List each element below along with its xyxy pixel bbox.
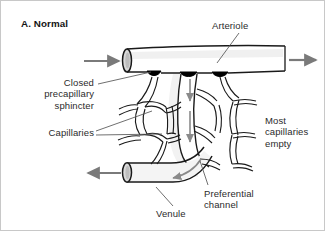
label-capillaries: Capillaries — [22, 127, 94, 138]
sphincter-node-1 — [147, 71, 161, 76]
leader-capillaries-2 — [96, 134, 162, 135]
pref-channel-right-wall — [194, 74, 209, 167]
precapillary-sphincter-nodes — [147, 71, 228, 77]
figure-panel-a-normal: A. Normal Arteriole Closed precapillary … — [0, 0, 325, 231]
label-arteriole: Arteriole — [212, 20, 248, 31]
label-venule: Venule — [156, 208, 186, 219]
leader-sphincter — [98, 72, 151, 84]
venule-vessel — [123, 147, 213, 182]
sphincter-node-2 — [180, 72, 197, 77]
sphincter-node-3 — [212, 72, 228, 77]
leader-venule — [156, 187, 173, 206]
panel-title: A. Normal — [21, 18, 68, 29]
label-closed-precapillary-sphincter: Closed precapillary sphincter — [22, 77, 94, 111]
arteriole-vessel — [123, 46, 286, 73]
label-preferential-channel: Preferential channel — [204, 188, 270, 211]
label-most-capillaries-empty: Most capillaries empty — [265, 115, 325, 149]
